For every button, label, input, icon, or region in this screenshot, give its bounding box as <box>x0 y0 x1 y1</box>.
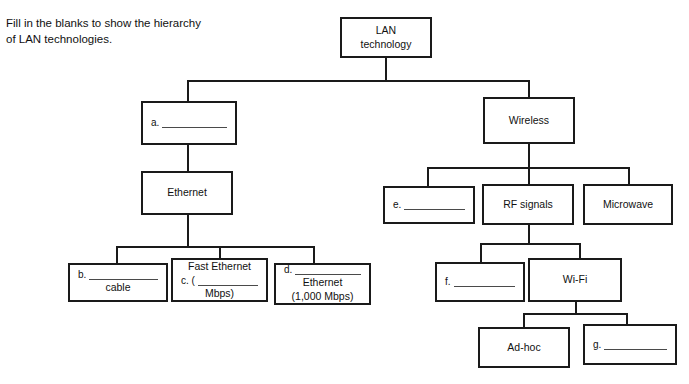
blank-b-row[interactable]: b. <box>70 270 166 280</box>
connector-wireless-to-microwave <box>628 167 630 184</box>
connector-root-to-wireless <box>528 80 530 97</box>
blank-a-prefix: a. <box>151 118 159 128</box>
blank-a-row[interactable]: a. <box>143 118 235 128</box>
connector-root-bus <box>187 80 530 82</box>
connector-ethernet-stem <box>187 215 189 247</box>
node-microwave[interactable]: Microwave <box>583 184 673 225</box>
connector-wifi-bus <box>523 313 628 315</box>
blank-b-rule[interactable] <box>89 270 158 280</box>
blank-d-prefix: d. <box>284 265 292 275</box>
blank-f-row[interactable]: f. <box>437 277 523 287</box>
node-adhoc[interactable]: Ad-hoc <box>478 327 570 368</box>
diagram-canvas: Fill in the blanks to show the hierarchy… <box>0 0 689 384</box>
blank-e-prefix: e. <box>393 200 401 210</box>
node-microwave-label: Microwave <box>603 198 653 212</box>
node-blank-c-subtext: Mbps) <box>205 287 234 300</box>
node-wifi[interactable]: Wi-Fi <box>528 258 622 302</box>
node-blank-e[interactable]: e. <box>383 186 475 224</box>
node-blank-c[interactable]: Fast Ethernet c. ( Mbps) <box>171 258 268 302</box>
blank-c-rule[interactable] <box>198 276 258 286</box>
connector-root-stem <box>385 58 387 81</box>
connector-rf-to-wifi <box>579 243 581 258</box>
node-wireless-label: Wireless <box>509 114 549 128</box>
blank-e-rule[interactable] <box>404 200 465 210</box>
node-blank-a[interactable]: a. <box>141 101 237 145</box>
connector-wireless-to-e <box>427 167 429 186</box>
blank-c-row[interactable]: c. ( <box>173 276 266 286</box>
node-blank-b-subtext: cable <box>105 281 130 294</box>
connector-ethernet-to-c <box>219 246 221 258</box>
node-blank-f[interactable]: f. <box>435 262 525 302</box>
instructions-text: Fill in the blanks to show the hierarchy… <box>6 16 256 47</box>
connector-wifi-to-adhoc <box>523 313 525 328</box>
connector-ethernet-to-b <box>116 246 118 263</box>
blank-a-rule[interactable] <box>162 118 227 128</box>
node-lan-technology[interactable]: LAN technology <box>340 17 432 58</box>
connector-rf-to-f <box>480 243 482 262</box>
node-wireless[interactable]: Wireless <box>483 97 575 144</box>
node-blank-d[interactable]: d. Ethernet (1,000 Mbps) <box>274 263 371 305</box>
blank-d-row[interactable]: d. <box>276 265 369 275</box>
node-wifi-label: Wi-Fi <box>563 273 588 287</box>
node-ethernet[interactable]: Ethernet <box>141 171 233 215</box>
node-blank-g[interactable]: g. <box>583 324 677 365</box>
node-blank-b[interactable]: b. cable <box>68 263 168 302</box>
blank-d-rule[interactable] <box>295 265 361 275</box>
node-blank-c-toptext: Fast Ethernet <box>188 260 251 273</box>
connector-rf-stem <box>528 224 530 245</box>
connector-rf-bus <box>480 243 581 245</box>
blank-f-rule[interactable] <box>454 277 515 287</box>
connector-ethernet-to-d <box>313 246 315 263</box>
node-rf-signals[interactable]: RF signals <box>482 184 574 225</box>
node-blank-d-subtext: Ethernet (1,000 Mbps) <box>292 276 354 302</box>
node-rf-signals-label: RF signals <box>503 198 553 212</box>
node-adhoc-label: Ad-hoc <box>507 341 540 355</box>
connector-wireless-stem <box>528 144 530 168</box>
blank-g-rule[interactable] <box>604 340 667 350</box>
connector-root-to-a <box>187 80 189 101</box>
blank-f-prefix: f. <box>445 277 451 287</box>
blank-g-prefix: g. <box>593 340 601 350</box>
blank-e-row[interactable]: e. <box>385 200 473 210</box>
blank-b-prefix: b. <box>78 270 86 280</box>
connector-wireless-to-rf <box>528 167 530 184</box>
blank-g-row[interactable]: g. <box>585 340 675 350</box>
connector-ethernet-bus <box>116 246 315 248</box>
node-ethernet-label: Ethernet <box>167 186 207 200</box>
blank-c-prefix: c. ( <box>181 276 195 286</box>
node-lan-technology-label: LAN technology <box>361 24 412 51</box>
connector-a-to-ethernet <box>187 145 189 171</box>
